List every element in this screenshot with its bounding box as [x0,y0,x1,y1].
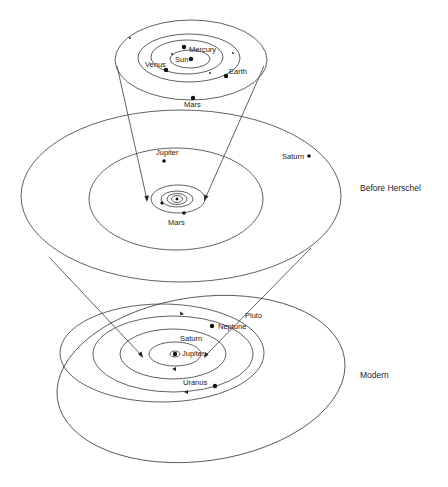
mercury-dot [182,45,186,49]
planet-dot-mid [160,201,163,204]
mercury-label: Mercury [189,45,216,54]
jupiter-label-mid: Jupiter [156,148,179,157]
jupiter-dot-mid [162,159,166,163]
funnel-line-left-top [117,66,147,200]
saturn-label: Saturn [180,334,202,343]
sun-dot [189,57,193,61]
saturn-dot-mid [307,154,311,158]
sun-dot-modern [173,352,177,356]
funnel-line-right-top [205,66,264,199]
saturn-label-mid: Saturn [282,152,304,161]
funnel-arrow-icon [145,196,150,203]
venus-label: Venus [145,60,166,69]
mars-label-top: Mars [184,100,201,109]
mars-dot-mid [182,211,186,215]
pluto-label: Pluto [245,311,262,320]
orbit-arrow-icon [184,390,188,394]
funnel-line-right-mid [205,248,311,356]
era-label-modern: Modern [360,370,389,380]
earth-label: Earth [229,67,247,76]
before-herschel-system: Jupiter Saturn Mars [21,110,341,282]
neptune-label: Neptune [218,322,246,331]
uranus-label: Uranus [183,378,207,387]
solar-system-diagram: Sun Mercury Venus Earth Mars Jupiter Sat… [0,0,448,487]
orbit-arrow-icon [180,312,184,316]
inner-solar-system: Sun Mercury Venus Earth Mars [115,20,267,109]
modern-system: Pluto Neptune Saturn Jupiter Uranus [46,278,356,481]
mars-label-mid: Mars [168,218,185,227]
neptune-orbit [60,304,264,402]
orbit-arrow-icon [129,37,131,39]
orbit-arrow-icon [232,52,234,54]
era-label-before-herschel: Before Herschel [360,183,421,193]
saturn-orbit-mid [21,110,341,282]
orbit-arrow-icon [171,53,173,55]
orbit-arrow-icon [172,367,176,371]
sun-label: Sun [175,55,188,64]
earth-dot [224,74,228,78]
orbit-arrow-icon [209,72,211,74]
uranus-dot [213,384,217,388]
sun-dot-mid [176,198,179,201]
jupiter-label: Jupiter [182,349,205,358]
neptune-dot [210,324,214,328]
